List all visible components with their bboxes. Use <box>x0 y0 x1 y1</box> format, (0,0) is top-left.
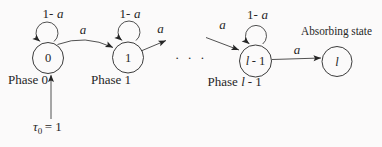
phase-l-1-caption: Phasel- 1 <box>208 74 262 89</box>
transition-l-1-l-label: a <box>294 42 301 57</box>
state-0-label: 0 <box>45 51 51 65</box>
ellipsis-dots: · · · <box>175 50 207 65</box>
state-l-1-label: l- 1 <box>246 54 266 68</box>
transition-0-1-label: a <box>80 22 87 37</box>
absorbing-state-caption: Absorbing state <box>301 23 372 38</box>
transition-0-1-arrowhead <box>105 42 114 51</box>
transition-1-out-arrowhead <box>158 38 167 46</box>
transition-in-l-1-label: a <box>219 17 226 32</box>
transition-0-1-arrow <box>58 40 114 48</box>
state-0-self-loop-label: 1-a <box>43 6 64 21</box>
transition-l-1-l-arrow <box>272 58 321 60</box>
state-0-self-loop-arrowhead <box>32 34 42 43</box>
transition-in-l-1-arrowhead <box>231 45 240 53</box>
state-1-self-loop <box>118 21 140 40</box>
state-1-label: 1 <box>125 51 131 65</box>
markov-phase-diagram: 0 1-a Phase 0 τ0= 1 a 1 1-a Phase 1 a · … <box>0 0 382 147</box>
state-l-1-self-loop-arrowhead <box>242 37 252 46</box>
phase-0-caption: Phase 0 <box>8 72 48 87</box>
state-1-self-loop-arrowhead <box>114 33 124 42</box>
phase-1-caption: Phase 1 <box>91 72 131 87</box>
absorbing-state-label: l <box>335 55 339 69</box>
state-1-self-loop-label: 1-a <box>120 6 141 21</box>
state-l-1-self-loop-label: 1-a <box>247 7 268 22</box>
state-l-1-self-loop <box>246 25 267 44</box>
transition-1-out-label: a <box>157 21 164 36</box>
initial-probability-label: τ0= 1 <box>33 119 62 136</box>
state-0-self-loop <box>36 22 58 41</box>
diagram-canvas: 0 1-a Phase 0 τ0= 1 a 1 1-a Phase 1 a · … <box>0 0 382 147</box>
